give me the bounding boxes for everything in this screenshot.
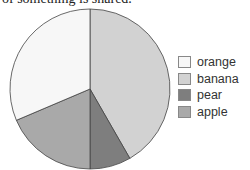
pie-chart [0, 0, 175, 170]
legend-label: pear [197, 88, 222, 102]
legend-swatch [178, 106, 191, 118]
legend-item-orange: orange [178, 54, 239, 71]
legend-item-banana: banana [178, 71, 239, 88]
legend-swatch [178, 73, 191, 85]
legend-swatch [178, 89, 191, 101]
pie-slices [10, 9, 170, 169]
legend-label: orange [197, 55, 236, 69]
legend-label: banana [197, 72, 239, 86]
legend-item-pear: pear [178, 87, 239, 104]
legend-swatch [178, 56, 191, 68]
legend: orange banana pear apple [178, 54, 239, 120]
legend-label: apple [197, 105, 228, 119]
legend-item-apple: apple [178, 104, 239, 121]
